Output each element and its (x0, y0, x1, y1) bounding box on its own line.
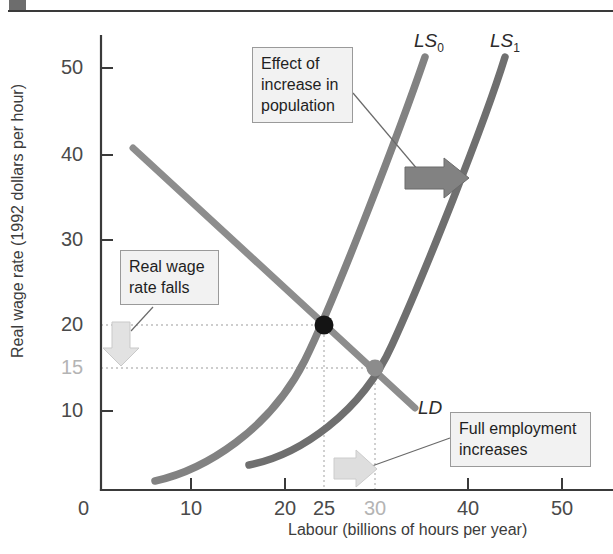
figure-container: 50 40 30 20 15 10 0 10 20 25 30 40 50 Re… (0, 0, 613, 554)
xtick-label-25: 25 (313, 497, 335, 520)
xtick-label-0: 0 (78, 497, 89, 520)
leader-employment (372, 438, 450, 466)
y-axis-title: Real wage rate (1992 dollars per hour) (9, 51, 27, 391)
callout-full-employment-increases: Full employment increases (450, 412, 591, 467)
curve-label-ld: LD (418, 397, 442, 419)
ytick-label-15: 15 (61, 356, 83, 379)
curve-label-ls0-text: LS (414, 30, 437, 51)
curve-label-ls1-sub: 1 (513, 41, 520, 55)
ytick-label-20: 20 (61, 313, 83, 336)
callout-real-wage-rate-falls: Real wage rate falls (120, 250, 219, 305)
equilibrium-point-new (367, 360, 384, 377)
xtick-label-30: 30 (364, 497, 386, 520)
ytick-label-50: 50 (61, 56, 83, 79)
xtick-label-50: 50 (551, 497, 573, 520)
xtick-label-40: 40 (457, 497, 479, 520)
curve-label-ls0-sub: 0 (437, 41, 444, 55)
curve-label-ls1-text: LS (490, 30, 513, 51)
xtick-label-10: 10 (180, 497, 202, 520)
x-axis-title: Labour (billions of hours per year) (288, 521, 527, 539)
equilibrium-point-initial (315, 316, 334, 335)
curve-label-ls0: LS0 (414, 30, 444, 55)
callout-effect-of-population: Effect of increase in population (252, 47, 353, 123)
ytick-label-30: 30 (61, 228, 83, 251)
ytick-label-10: 10 (61, 399, 83, 422)
ytick-label-40: 40 (61, 143, 83, 166)
xtick-label-20: 20 (274, 497, 296, 520)
curve-label-ls1: LS1 (490, 30, 520, 55)
employment-right-arrow-light (334, 450, 377, 487)
leader-wagefalls (131, 307, 153, 331)
